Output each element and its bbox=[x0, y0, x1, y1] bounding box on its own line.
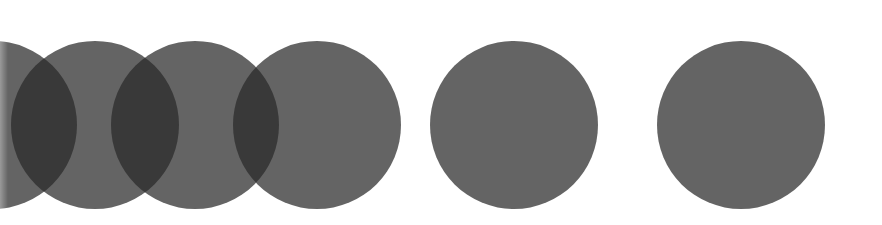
circle-4 bbox=[233, 41, 401, 209]
circles-figure bbox=[0, 0, 882, 225]
circle-6 bbox=[657, 41, 825, 209]
circle-5 bbox=[430, 41, 598, 209]
left-edge-fade bbox=[0, 0, 8, 225]
